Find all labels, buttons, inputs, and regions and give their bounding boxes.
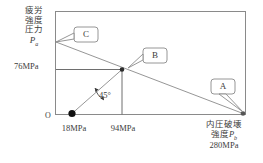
figure-canvas: 疲労 強度 圧力 Pa 76MPa O 18MPa 94MPa 内圧破壊 強度P… bbox=[0, 0, 263, 163]
y-tick-label-76mpa: 76MPa bbox=[14, 62, 39, 72]
y-axis-label: 疲労 強度 圧力 Pa bbox=[14, 6, 54, 47]
x-tick-label-94mpa: 94MPa bbox=[104, 124, 142, 134]
point-18mpa bbox=[68, 110, 75, 117]
callout-label-a: A bbox=[216, 81, 230, 91]
x-axis-caption: 内圧破壊 強度Pb 280MPa bbox=[186, 120, 262, 150]
x-axis-caption-value: 280MPa bbox=[186, 141, 262, 151]
callout-label-b: B bbox=[148, 50, 162, 60]
forty-five-degree-line bbox=[72, 70, 122, 114]
callout-label-c: C bbox=[79, 29, 93, 39]
callout-b-tail bbox=[128, 54, 143, 68]
y-axis-symbol-subscript: a bbox=[35, 40, 38, 46]
x-tick-label-18mpa: 18MPa bbox=[55, 124, 93, 134]
x-axis-caption-symbol: Pb bbox=[229, 129, 237, 139]
callout-c-tail bbox=[56, 33, 74, 42]
angle-label: 45° bbox=[99, 91, 111, 101]
y-axis-label-symbol: Pa bbox=[14, 35, 54, 48]
point-b-intersection bbox=[120, 67, 125, 72]
x-axis-caption-text: 強度 bbox=[211, 129, 229, 139]
y-axis-label-line-3: 圧力 bbox=[14, 25, 54, 35]
origin-label: O bbox=[45, 112, 51, 121]
